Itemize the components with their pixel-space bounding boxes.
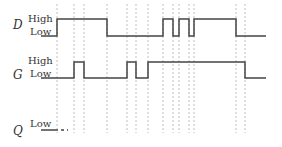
q-low-label: Low: [30, 118, 52, 129]
timing-diagram: D High Low G High Low Q Low: [0, 0, 282, 147]
signal-label-g: G: [13, 68, 23, 82]
timing-guide-lines: [57, 4, 245, 133]
d-waveform: [41, 19, 266, 36]
g-high-label: High: [28, 55, 53, 66]
signal-label-d: D: [12, 18, 23, 32]
d-high-label: High: [28, 13, 53, 24]
g-waveform: [41, 62, 266, 78]
signal-label-q: Q: [13, 124, 23, 138]
